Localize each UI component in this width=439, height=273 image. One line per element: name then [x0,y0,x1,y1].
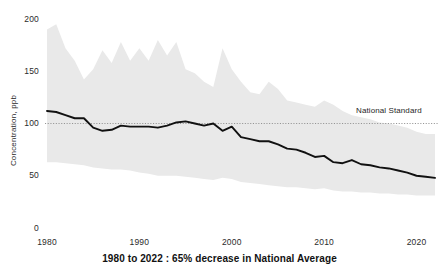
y-tick-label-150: 150 [13,66,39,76]
x-tick-label-1990: 1990 [119,237,159,247]
y-tick-label-100: 100 [13,118,39,128]
x-tick-label-2000: 2000 [212,237,252,247]
chart-caption: 1980 to 2022 : 65% decrease in National … [0,253,439,264]
x-tick-label-2020: 2020 [397,237,437,247]
chart-plot-area [0,0,439,273]
x-tick-label-1980: 1980 [27,237,67,247]
x-tick-label-2010: 2010 [304,237,344,247]
national-standard-annotation-label: National Standard [356,106,422,115]
y-axis-label: Concentration, ppb [9,81,18,181]
y-tick-label-50: 50 [13,170,39,180]
y-tick-label-200: 200 [13,14,39,24]
chart-figure: Concentration, ppb 050100150200 19801990… [0,0,439,273]
y-tick-label-0: 0 [13,223,39,233]
